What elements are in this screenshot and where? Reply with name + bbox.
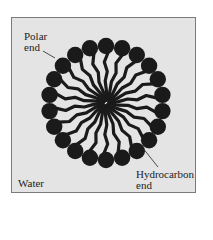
polar-head bbox=[129, 47, 145, 63]
polar-head bbox=[150, 119, 166, 135]
polar-head bbox=[46, 71, 62, 87]
polar-head bbox=[41, 87, 57, 103]
polar-head bbox=[141, 132, 157, 148]
polar-end-label: Polar end bbox=[24, 31, 47, 53]
polar-head bbox=[154, 103, 170, 119]
polar-head bbox=[46, 119, 62, 135]
hydrocarbon-tail bbox=[106, 106, 136, 152]
hydrocarbon-tail bbox=[75, 55, 105, 101]
polar-label-line2: end bbox=[24, 42, 47, 53]
polar-head bbox=[141, 57, 157, 73]
hydro-label-line2: end bbox=[136, 180, 194, 191]
polar-head bbox=[55, 57, 71, 73]
polar-head bbox=[154, 87, 170, 103]
polar-head bbox=[55, 132, 71, 148]
polar-head bbox=[98, 152, 114, 168]
polar-head bbox=[82, 40, 98, 56]
polar-head bbox=[82, 150, 98, 166]
polar-head bbox=[67, 143, 83, 159]
hydrocarbon-end-label: Hydrocarbon end bbox=[136, 169, 194, 191]
polar-head bbox=[150, 71, 166, 87]
polar-head bbox=[41, 103, 57, 119]
polar-head bbox=[98, 38, 114, 54]
polar-head bbox=[114, 40, 130, 56]
hydrocarbon-leader-line bbox=[142, 147, 158, 167]
water-label: Water bbox=[18, 178, 44, 189]
polar-head bbox=[114, 150, 130, 166]
polar-head bbox=[67, 47, 83, 63]
polar-head bbox=[129, 143, 145, 159]
